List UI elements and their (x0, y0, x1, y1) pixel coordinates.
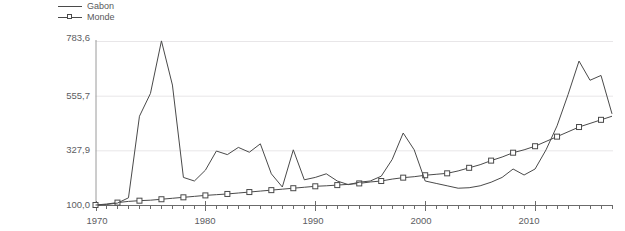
axis-lines (96, 40, 614, 206)
gridlines (96, 42, 614, 206)
chart-container: Gabon Monde 783,6 555,7 327,9 100,0 1970… (0, 0, 625, 231)
series-markers-monde (93, 117, 604, 207)
series-line-gabon (96, 41, 613, 205)
plot-area (0, 0, 625, 231)
series-line-monde (96, 116, 613, 205)
